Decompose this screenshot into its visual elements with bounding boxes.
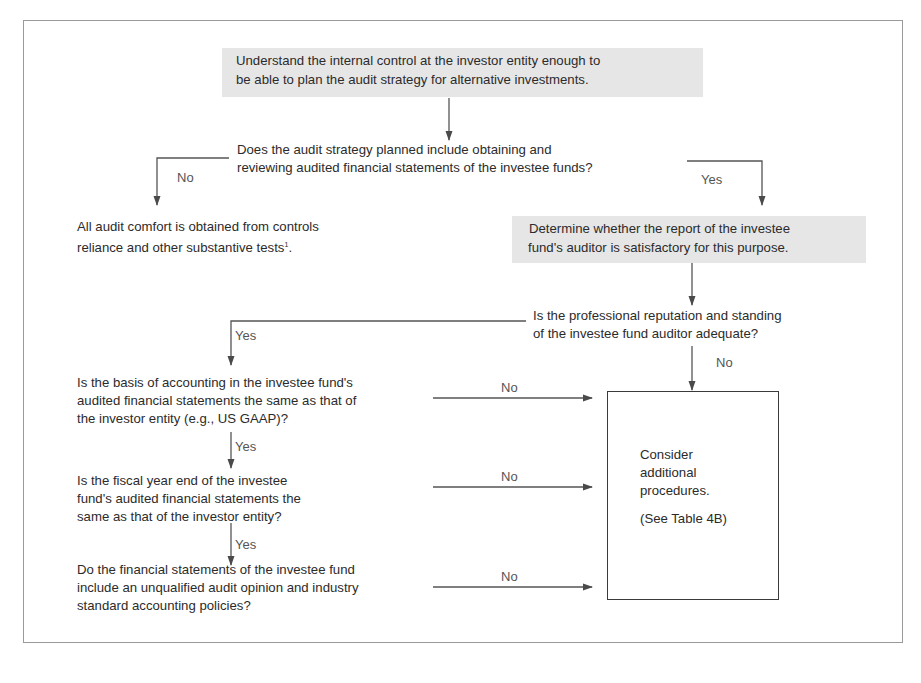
- question5-line1: Do the financial statements of the inves…: [77, 561, 355, 579]
- question1-no-label: No: [177, 170, 194, 186]
- question5-no-label: No: [501, 569, 518, 585]
- arrow-q2-yes: [231, 321, 526, 365]
- question3-yes-label: Yes: [235, 439, 256, 455]
- question2-line2: of the investee fund auditor adequate?: [533, 325, 758, 343]
- question3-line3: the investor entity (e.g., US GAAP)?: [77, 410, 288, 428]
- question3-no-label: No: [501, 380, 518, 396]
- question4-no-label: No: [501, 469, 518, 485]
- consider-line2: additional: [640, 464, 696, 482]
- no-outcome-line1: All audit comfort is obtained from contr…: [77, 218, 319, 236]
- question2-no-label: No: [716, 355, 733, 371]
- question4-line2: fund's audited financial statements the: [77, 490, 301, 508]
- question5-line3: standard accounting policies?: [77, 597, 251, 615]
- no-outcome-line2: reliance and other substantive tests1.: [77, 236, 292, 257]
- question3-line2: audited financial statements the same as…: [77, 392, 356, 410]
- consider-line1: Consider: [640, 446, 693, 464]
- consider-line3: procedures.: [640, 482, 710, 500]
- question3-line1: Is the basis of accounting in the invest…: [77, 374, 353, 392]
- no-outcome-line2-text: reliance and other substantive tests: [77, 240, 284, 255]
- start-text-line2: be able to plan the audit strategy for a…: [236, 71, 589, 89]
- arrow-q1-yes: [687, 161, 762, 205]
- question1-yes-label: Yes: [701, 172, 722, 188]
- consider-table-ref: (See Table 4B): [640, 510, 727, 528]
- determine-line2: fund's auditor is satisfactory for this …: [528, 239, 789, 257]
- question4-line1: Is the fiscal year end of the investee: [77, 472, 287, 490]
- no-outcome-period: .: [288, 240, 292, 255]
- determine-line1: Determine whether the report of the inve…: [529, 220, 790, 238]
- question1-line1: Does the audit strategy planned include …: [237, 141, 552, 159]
- question4-line3: same as that of the investor entity?: [77, 508, 282, 526]
- question2-yes-label: Yes: [235, 328, 256, 344]
- question1-line2: reviewing audited financial statements o…: [237, 159, 593, 177]
- start-text-line1: Understand the internal control at the i…: [236, 52, 600, 70]
- question2-line1: Is the professional reputation and stand…: [533, 307, 782, 325]
- question4-yes-label: Yes: [235, 537, 256, 553]
- question5-line2: include an unqualified audit opinion and…: [77, 579, 359, 597]
